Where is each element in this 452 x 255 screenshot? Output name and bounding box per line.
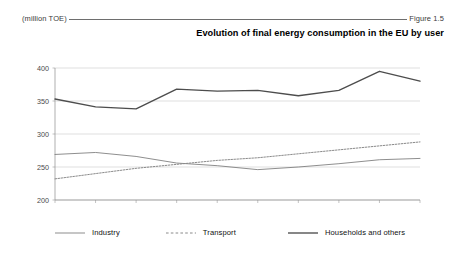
chart-legend: IndustryTransportHouseholds and others	[0, 228, 452, 250]
x-axis-tick-label: 1997	[412, 206, 428, 208]
gridlines-group	[55, 68, 420, 200]
x-axis-tick-label: 1995	[331, 206, 347, 208]
series-line-transport	[55, 142, 420, 179]
x-axis-tick-label: 1996	[371, 206, 387, 208]
legend-items: IndustryTransportHouseholds and others	[0, 228, 452, 237]
figure-header: (million TOE) Figure 1.5	[0, 10, 452, 26]
legend-label: Transport	[203, 228, 236, 237]
legend-item: Industry	[55, 228, 120, 237]
legend-swatch-industry	[55, 229, 85, 237]
figure-page: (million TOE) Figure 1.5 Evolution of fi…	[0, 0, 452, 255]
legend-label: Households and others	[325, 228, 405, 237]
y-axis-tick-label: 250	[37, 163, 49, 172]
legend-swatch-transport	[166, 229, 196, 237]
line-chart-svg: 200250300350400 198819891990199119921993…	[0, 58, 452, 208]
header-divider	[69, 19, 407, 20]
legend-item: Transport	[166, 228, 236, 237]
x-axis-tick-label: 1994	[290, 206, 306, 208]
x-axis-tick-label: 1988	[47, 206, 63, 208]
x-axis-tick-label: 1993	[250, 206, 266, 208]
y-axis-ticks-group	[53, 68, 56, 200]
y-axis-tick-label: 300	[37, 130, 49, 139]
y-axis-labels-group: 200250300350400	[37, 64, 49, 205]
legend-label: Industry	[92, 228, 120, 237]
x-axis-tick-label: 1991	[169, 206, 185, 208]
x-axis-tick-label: 1990	[128, 206, 144, 208]
x-axis-ticks-group	[55, 200, 420, 203]
x-axis-tick-label: 1989	[88, 206, 104, 208]
chart-title: Evolution of final energy consumption in…	[0, 28, 444, 38]
y-axis-tick-label: 400	[37, 64, 49, 73]
x-axis-tick-label: 1992	[209, 206, 225, 208]
legend-item: Households and others	[288, 228, 405, 237]
y-axis-tick-label: 200	[37, 196, 49, 205]
x-axis-labels-group: 1988198919901991199219931994199519961997	[47, 206, 428, 208]
y-axis-tick-label: 350	[37, 97, 49, 106]
chart-plot-area: 200250300350400 198819891990199119921993…	[0, 58, 452, 208]
unit-label: (million TOE)	[0, 14, 67, 23]
series-line-households-and-others	[55, 71, 420, 109]
data-series-group	[55, 71, 420, 179]
legend-swatch-households-and-others	[288, 229, 318, 237]
figure-number-label: Figure 1.5	[409, 14, 452, 23]
